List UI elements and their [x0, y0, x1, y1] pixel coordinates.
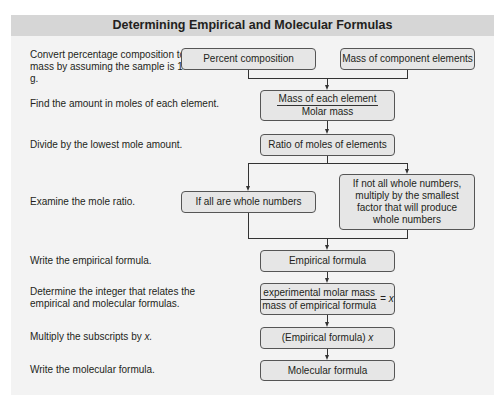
step-write-empirical: Write the empirical formula.: [30, 255, 225, 267]
step-find-moles: Find the amount in moles of each element…: [30, 98, 225, 110]
fraction-denominator: Molar mass: [302, 106, 354, 118]
fraction-numerator: experimental molar mass: [261, 287, 377, 300]
step-multiply: Multiply the subscripts by x.: [30, 331, 225, 343]
fraction-numerator: Mass of each element: [277, 93, 379, 106]
box-integer-equation: experimental molar mass mass of empirica…: [260, 283, 395, 315]
box-empirical-formula: Empirical formula: [260, 250, 395, 272]
box-mass-over-molar-mass: Mass of each element Molar mass: [260, 90, 395, 121]
box-label: Percent composition: [203, 53, 294, 65]
equation-result: = x: [380, 293, 394, 305]
box-label: Empirical formula: [289, 255, 366, 267]
box-variable: x: [368, 332, 373, 343]
box-ratio-of-moles: Ratio of moles of elements: [260, 134, 395, 156]
fraction: Mass of each element Molar mass: [277, 93, 379, 118]
diagram-title: Determining Empirical and Molecular Form…: [11, 15, 494, 36]
fraction: experimental molar mass mass of empirica…: [261, 287, 377, 312]
step-determine-integer: Determine the integer that relates the e…: [30, 286, 225, 310]
box-molecular-formula: Molecular formula: [260, 360, 395, 381]
box-percent-composition: Percent composition: [181, 48, 316, 70]
step-multiply-var: x.: [145, 331, 153, 342]
step-divide: Divide by the lowest mole amount.: [30, 139, 225, 151]
step-write-molecular: Write the molecular formula.: [30, 364, 225, 376]
box-label: (Empirical formula): [282, 332, 369, 343]
box-label: Molecular formula: [288, 365, 367, 377]
box-empirical-times-x: (Empirical formula) x: [260, 327, 395, 349]
box-mass-of-component-elements: Mass of component elements: [340, 48, 475, 70]
step-multiply-text: Multiply the subscripts by: [30, 331, 145, 342]
fraction-denominator: mass of empirical formula: [262, 300, 376, 312]
box-label: If not all whole numbers, multiply by th…: [348, 178, 466, 226]
box-label: If all are whole numbers: [195, 196, 301, 208]
box-label: Ratio of moles of elements: [268, 139, 386, 151]
step-convert: Convert percentage composition to mass b…: [30, 49, 200, 85]
box-not-all-whole-numbers: If not all whole numbers, multiply by th…: [339, 174, 475, 230]
box-all-whole-numbers: If all are whole numbers: [181, 191, 316, 213]
box-label: Mass of component elements: [342, 53, 473, 65]
